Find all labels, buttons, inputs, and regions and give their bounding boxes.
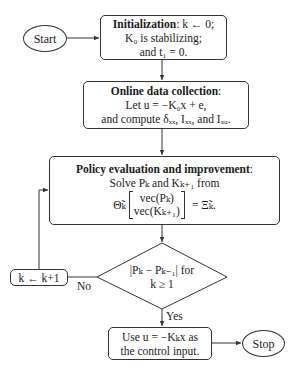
decision-line-1: |Pₖ − Pₖ₋₁| for [107, 263, 217, 277]
initialization-box: Initialization: k ← 0; K₀ is stabilizing… [100, 15, 227, 60]
use-line-1: Use u = −Kₖx as [122, 330, 198, 344]
init-line-2: K₀ is stabilizing; [125, 31, 202, 45]
online-data-collection-box: Online data collection: Let u = −K₀x + e… [83, 81, 249, 129]
decision-line-2: k ≥ 1 [107, 277, 217, 291]
init-line1-rest: : k ← 0; [176, 18, 214, 30]
use-control-input-box: Use u = −Kₖx as the control input. [108, 327, 212, 360]
yes-label: Yes [166, 310, 183, 323]
policy-title: Policy evaluation and improvement [76, 163, 250, 175]
decision-text: |Pₖ − Pₖ₋₁| for k ≥ 1 [107, 263, 217, 291]
equation-vector-bottom: vec(Kₖ₊₁) [134, 205, 180, 218]
no-label: No [77, 280, 91, 293]
online-line-3: and compute δₓₓ, Iₓₓ, and Iₓᵤ. [101, 112, 230, 126]
stop-label: Stop [252, 337, 274, 351]
equation-vector-top: vec(Pₖ) [134, 192, 180, 205]
policy-line-1: Policy evaluation and improvement: [76, 162, 253, 176]
online-line-1: Online data collection: [111, 84, 222, 98]
edge-increment-to-policy [39, 190, 48, 276]
online-title: Online data collection [111, 85, 218, 97]
policy-equation: Θ̃ₖ vec(Pₖ) vec(Kₖ₊₁) = Ξ̃ₖ. [113, 191, 216, 219]
init-line-3: and t₁ = 0. [140, 45, 188, 59]
equation-vector: vec(Pₖ) vec(Kₖ₊₁) [129, 191, 185, 219]
stop-node: Stop [242, 330, 285, 357]
equation-rhs: = Ξ̃ₖ. [192, 198, 216, 212]
policy-title-suffix: : [250, 163, 253, 175]
init-title: Initialization [113, 18, 176, 30]
equation-lhs: Θ̃ₖ [113, 198, 126, 212]
increment-label: k ← k+1 [19, 271, 60, 285]
online-line-2: Let u = −K₀x + e, [126, 98, 207, 112]
policy-evaluation-box: Policy evaluation and improvement: Solve… [49, 156, 280, 225]
start-node: Start [23, 25, 67, 52]
online-title-suffix: : [218, 85, 221, 97]
increment-k-box: k ← k+1 [10, 269, 68, 286]
start-label: Start [34, 32, 57, 46]
init-line-1: Initialization: k ← 0; [113, 17, 214, 31]
use-line-2: the control input. [121, 344, 200, 358]
policy-line-2: Solve Pₖ and Kₖ₊₁ from [110, 176, 220, 190]
